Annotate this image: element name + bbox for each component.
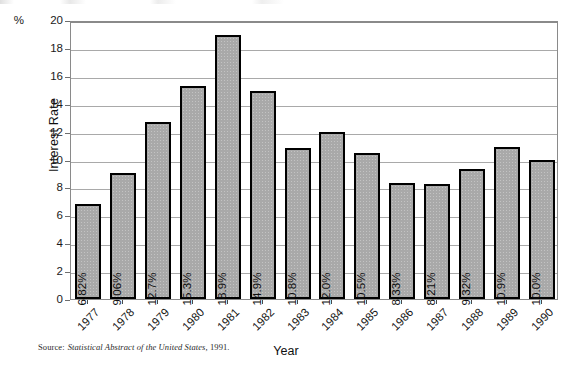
bar[interactable]: 10.0% (529, 160, 555, 300)
bar[interactable]: 6.82% (75, 204, 101, 299)
bar[interactable]: 10.8% (285, 148, 311, 299)
x-tick-mark (541, 300, 542, 304)
x-tick-mark (366, 300, 367, 304)
y-tick-label: 10 (26, 154, 63, 166)
y-tick-label: 4 (26, 237, 63, 249)
x-tick-mark (157, 300, 158, 304)
gridline (71, 134, 557, 135)
y-tick-mark (65, 300, 70, 301)
bar[interactable]: 9.06% (110, 173, 136, 299)
source-note: Source:Statistical Abstract of the Unite… (38, 342, 230, 352)
bar[interactable]: 9.32% (459, 169, 485, 299)
x-tick-mark (227, 300, 228, 304)
gridline (71, 162, 557, 163)
x-tick-mark (87, 300, 88, 304)
x-tick-mark (401, 300, 402, 304)
y-tick-label: 18 (26, 42, 63, 54)
gridline (71, 50, 557, 51)
bar[interactable]: 10.5% (354, 153, 380, 299)
x-tick-mark (122, 300, 123, 304)
y-tick-label: 14 (26, 98, 63, 110)
x-tick-mark (192, 300, 193, 304)
y-tick-label: 20 (26, 14, 63, 26)
bar[interactable]: 12.7% (145, 122, 171, 299)
source-prefix: Source: (38, 342, 65, 352)
y-tick-label: 12 (26, 126, 63, 138)
gridline (71, 22, 557, 23)
bar[interactable]: 18.9% (215, 35, 241, 299)
bar[interactable]: 10.9% (494, 147, 520, 299)
y-tick-label: 8 (26, 181, 63, 193)
bar[interactable]: 8.33% (389, 183, 415, 299)
y-tick-label: 16 (26, 70, 63, 82)
x-tick-mark (331, 300, 332, 304)
y-axis-percent-marker: % (10, 14, 24, 26)
x-tick-mark (436, 300, 437, 304)
source-suffix: , 1991. (205, 342, 229, 352)
bar[interactable]: 12.0% (319, 132, 345, 299)
scan-artifact (0, 0, 572, 4)
bar[interactable]: 14.9% (250, 91, 276, 299)
gridline (71, 106, 557, 107)
plot-area: 6.82%9.06%12.7%15.3%18.9%14.9%10.8%12.0%… (70, 21, 558, 300)
x-tick-mark (506, 300, 507, 304)
y-tick-label: 0 (26, 293, 63, 305)
x-tick-mark (471, 300, 472, 304)
y-tick-label: 6 (26, 209, 63, 221)
x-tick-mark (262, 300, 263, 304)
gridline (71, 78, 557, 79)
interest-rate-bar-chart-figure: Interest Rate 02468101214161820% 6.82%9.… (0, 0, 572, 367)
y-tick-label: 2 (26, 265, 63, 277)
x-tick-mark (297, 300, 298, 304)
bar[interactable]: 15.3% (180, 86, 206, 299)
source-title: Statistical Abstract of the United State… (68, 342, 206, 352)
bar[interactable]: 8.21% (424, 184, 450, 299)
